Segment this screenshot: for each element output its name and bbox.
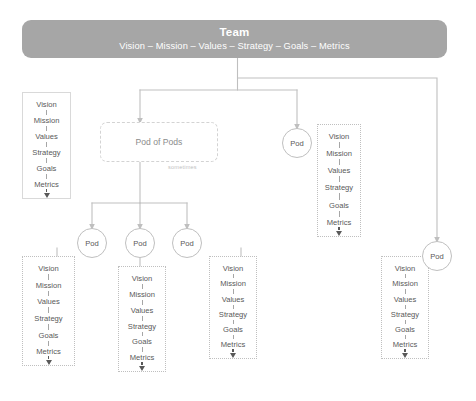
pod-right-top[interactable]: Pod: [282, 128, 312, 158]
value-item: Vision: [395, 264, 416, 273]
box-pod-3[interactable]: VisionMissionValuesStrategyGoalsMetrics: [209, 256, 257, 359]
value-item: Vision: [223, 264, 244, 273]
value-item: Mission: [34, 116, 60, 125]
value-item: Mission: [326, 149, 352, 158]
value-item: Mission: [36, 281, 62, 290]
value-item: Mission: [220, 279, 246, 288]
box-pod-right-top[interactable]: VisionMissionValuesStrategyGoalsMetrics: [317, 124, 361, 237]
value-connector-tick: [46, 174, 47, 179]
value-connector-tick: [339, 211, 340, 217]
value-connector-tick: [233, 335, 234, 339]
value-connector-tick: [46, 158, 47, 163]
value-arrow-head-icon: [44, 193, 50, 198]
value-connector-tick: [233, 274, 234, 278]
value-item: Values: [37, 297, 60, 306]
value-item: Goals: [132, 337, 152, 346]
value-item: Values: [35, 132, 58, 141]
value-arrow-head-icon: [139, 366, 145, 371]
header-subtitle: Vision – Mission – Values – Strategy – G…: [119, 40, 349, 52]
value-item: Vision: [132, 274, 153, 283]
pod-label: Pod: [133, 239, 147, 248]
value-item: Goals: [395, 325, 415, 334]
value-connector-tick: [405, 320, 406, 324]
value-connector-tick: [339, 142, 340, 148]
value-arrow-head-icon: [46, 360, 52, 365]
value-item: Goals: [37, 164, 57, 173]
value-item: Goals: [39, 331, 59, 340]
team-header-bar: Team Vision – Mission – Values – Strateg…: [22, 20, 447, 58]
pod-of-pods-label: Pod of Pods: [136, 137, 183, 147]
value-connector-tick: [46, 142, 47, 147]
value-arrow-stem: [404, 349, 405, 352]
value-connector-tick: [142, 332, 143, 337]
value-connector-tick: [339, 193, 340, 199]
value-arrow-stem: [48, 356, 49, 359]
box-pod-far-right[interactable]: VisionMissionValuesStrategyGoalsMetrics: [381, 256, 429, 359]
value-connector-tick: [48, 274, 49, 280]
value-arrow-stem: [338, 227, 339, 230]
value-arrow-stem: [232, 349, 233, 352]
pod-of-pods-box[interactable]: Pod of Pods: [100, 122, 218, 162]
value-connector-tick: [142, 347, 143, 352]
value-item: Metrics: [130, 353, 154, 362]
value-item: Values: [131, 306, 154, 315]
value-connector-tick: [233, 289, 234, 293]
value-item: Strategy: [391, 310, 419, 319]
value-arrow-stem: [141, 362, 142, 365]
value-item: Strategy: [325, 183, 353, 192]
value-connector-tick: [142, 300, 143, 305]
value-item: Strategy: [32, 148, 60, 157]
value-connector-tick: [46, 126, 47, 131]
value-item: Goals: [329, 201, 349, 210]
value-connector-tick: [48, 291, 49, 297]
value-connector-tick: [339, 176, 340, 182]
pod-3[interactable]: Pod: [172, 228, 202, 258]
value-item: Metrics: [34, 180, 58, 189]
value-connector-tick: [46, 110, 47, 115]
value-item: Strategy: [219, 310, 247, 319]
pod-1[interactable]: Pod: [77, 228, 107, 258]
value-item: Metrics: [393, 340, 417, 349]
sometimes-caption: sometimes: [168, 164, 197, 170]
value-item: Strategy: [34, 314, 62, 323]
value-connector-tick: [233, 320, 234, 324]
pod-2[interactable]: Pod: [125, 228, 155, 258]
value-connector-tick: [405, 274, 406, 278]
value-item: Values: [394, 295, 417, 304]
value-item: Values: [222, 295, 245, 304]
value-item: Metrics: [36, 347, 60, 356]
value-connector-tick: [405, 335, 406, 339]
pod-label: Pod: [85, 239, 99, 248]
pod-far-right[interactable]: Pod: [422, 241, 452, 271]
diagram-canvas: Team Vision – Mission – Values – Strateg…: [0, 0, 476, 401]
value-arrow-head-icon: [402, 353, 408, 358]
pod-label: Pod: [430, 252, 444, 261]
value-item: Vision: [329, 132, 350, 141]
box-pod-2[interactable]: VisionMissionValuesStrategyGoalsMetrics: [118, 266, 166, 372]
value-arrow-head-icon: [230, 353, 236, 358]
value-item: Metrics: [221, 340, 245, 349]
value-item: Metrics: [327, 218, 351, 227]
box-team-left[interactable]: VisionMissionValuesStrategyGoalsMetrics: [22, 92, 71, 199]
value-connector-tick: [142, 316, 143, 321]
value-item: Values: [328, 166, 351, 175]
value-connector-tick: [48, 307, 49, 313]
value-item: Mission: [392, 279, 418, 288]
page-title: Team: [220, 26, 250, 39]
value-item: Mission: [129, 290, 155, 299]
value-item: Strategy: [128, 322, 156, 331]
box-pod-1[interactable]: VisionMissionValuesStrategyGoalsMetrics: [22, 256, 75, 366]
value-connector-tick: [48, 341, 49, 347]
value-connector-tick: [142, 284, 143, 289]
value-arrow-head-icon: [336, 231, 342, 236]
value-connector-tick: [233, 305, 234, 309]
value-item: Vision: [38, 264, 59, 273]
value-connector-tick: [339, 159, 340, 165]
pod-label: Pod: [290, 139, 304, 148]
value-arrow-stem: [46, 189, 47, 192]
value-connector-tick: [405, 305, 406, 309]
value-item: Vision: [36, 100, 57, 109]
pod-label: Pod: [180, 239, 194, 248]
value-item: Goals: [223, 325, 243, 334]
value-connector-tick: [48, 324, 49, 330]
